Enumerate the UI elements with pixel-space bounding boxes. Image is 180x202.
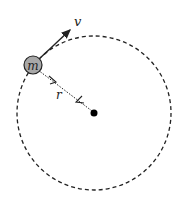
- circular-motion-diagram: m v r: [0, 0, 180, 202]
- radius-line: [38, 70, 92, 111]
- center-point: [91, 110, 98, 117]
- mass-label: m: [27, 59, 38, 73]
- radius-arrow-outward-icon: [49, 76, 56, 84]
- radius-label: r: [56, 88, 63, 102]
- velocity-vector: [38, 30, 70, 60]
- velocity-label: v: [74, 14, 82, 29]
